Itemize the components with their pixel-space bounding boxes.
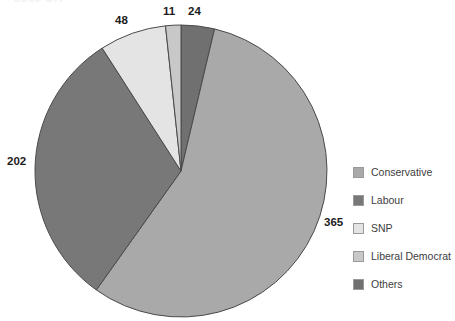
legend-item[interactable]: Conservative — [353, 158, 455, 186]
legend-item[interactable]: Others — [353, 270, 455, 298]
legend-item-label: Labour — [371, 195, 404, 206]
pie-chart-figure: 2019 UK 48 11 24 365 202 ConservativeLab… — [0, 0, 455, 321]
data-label-others: 24 — [188, 6, 201, 18]
chart-legend: ConservativeLabourSNPLiberal DemocratOth… — [353, 158, 455, 298]
legend-item[interactable]: SNP — [353, 214, 455, 242]
data-label-labour: 202 — [7, 156, 26, 168]
legend-swatch-icon — [353, 251, 364, 262]
legend-item[interactable]: Liberal Democrat — [353, 242, 455, 270]
data-label-liberal-democrat: 11 — [163, 6, 175, 18]
legend-item-label: SNP — [371, 223, 393, 234]
legend-swatch-icon — [353, 223, 364, 234]
legend-swatch-icon — [353, 279, 364, 290]
pie-plot-area — [0, 0, 360, 321]
pie-svg — [0, 0, 360, 321]
legend-item[interactable]: Labour — [353, 186, 455, 214]
legend-item-label: Others — [371, 279, 403, 290]
data-label-snp: 48 — [115, 15, 128, 27]
legend-swatch-icon — [353, 195, 364, 206]
legend-swatch-icon — [353, 167, 364, 178]
legend-item-label: Liberal Democrat — [371, 251, 451, 262]
pie-slices-group — [35, 25, 327, 317]
data-label-conservative: 365 — [324, 217, 343, 229]
legend-item-label: Conservative — [371, 167, 432, 178]
